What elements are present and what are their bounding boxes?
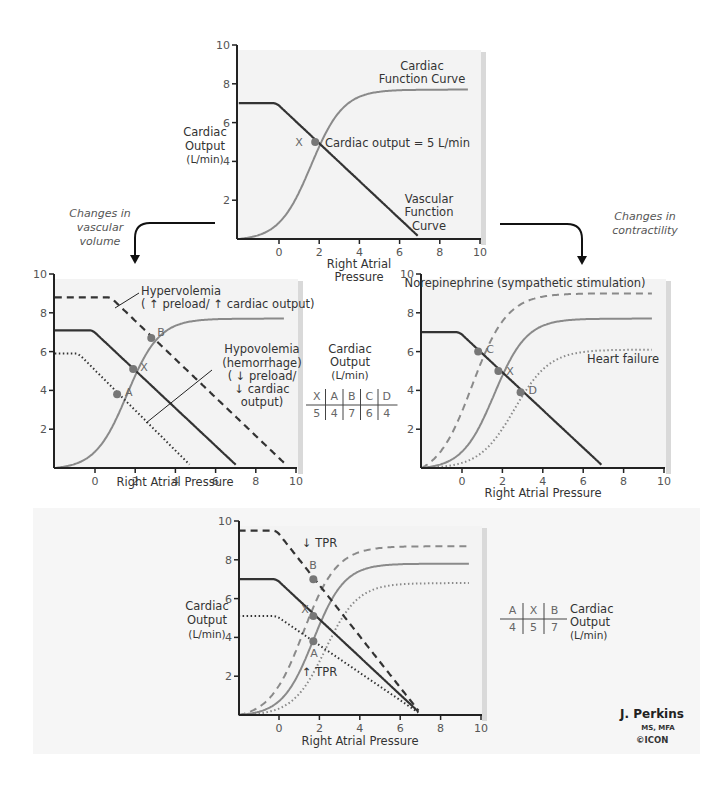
x-tick-label: 0: [276, 722, 283, 735]
x-axis-label: Right Atrial: [327, 257, 391, 271]
y-tick-label: 6: [40, 346, 47, 359]
y-tick-label: 8: [225, 554, 232, 567]
x-tick-label: 0: [92, 475, 99, 488]
table-cell: 5: [313, 407, 320, 420]
table-cell: 5: [530, 621, 537, 634]
x-tick-label: 8: [436, 246, 443, 259]
equilibrium-point-a: [113, 390, 121, 398]
plot-shadow: [482, 528, 487, 721]
arrow-down-icon: [577, 256, 587, 265]
y-tick-label: 4: [223, 155, 230, 168]
y-axis-label: Output: [185, 139, 225, 153]
point-label: X: [295, 136, 303, 149]
cardiac-curve-label: Function Curve: [379, 72, 466, 86]
arrow-down-icon: [130, 255, 140, 264]
table-title: Cardiac: [570, 602, 613, 616]
y-tick-label: 8: [407, 307, 414, 320]
middle-cardiac-output-table: Cardiac Output (L/min) X5A4B7C6D4: [306, 342, 398, 420]
x-tick-label: 8: [620, 475, 627, 488]
y-tick-label: 4: [407, 384, 414, 397]
table-cell: 7: [348, 407, 355, 420]
cardiac-curve-label: Cardiac: [400, 59, 443, 73]
arrow-contractility: Changes in contractility: [500, 210, 678, 265]
equilibrium-point-a: [309, 637, 317, 645]
point-label: C: [486, 343, 494, 356]
table-header: A: [330, 390, 338, 403]
table-header: X: [530, 604, 538, 617]
equilibrium-point-b: [309, 575, 317, 583]
y-tick-label: 8: [40, 307, 47, 320]
chart-contractility: 0246810246810CXD: [400, 268, 671, 488]
hypovolemia-label: (hemorrhage): [222, 356, 301, 370]
equilibrium-point-b: [147, 334, 155, 342]
table-header: X: [313, 390, 321, 403]
chart-tpr: 0246810246810BXA: [218, 515, 488, 735]
table-cell: 6: [366, 407, 373, 420]
arrow-label-line: volume: [80, 235, 121, 248]
x-axis-label: Pressure: [334, 270, 383, 284]
x-axis-label: Right Atrial Pressure: [484, 486, 601, 500]
table-cell: 4: [331, 407, 338, 420]
y-tick-label: 10: [216, 39, 230, 52]
point-label: X: [140, 361, 148, 374]
arrow-label-line: Changes in: [614, 210, 675, 223]
y-tick-label: 2: [223, 194, 230, 207]
x-tick-label: 0: [276, 246, 283, 259]
table-title: Cardiac: [328, 342, 371, 356]
equilibrium-point-x: [129, 365, 137, 373]
arrow-label-line: contractility: [612, 224, 678, 237]
y-tick-label: 2: [407, 423, 414, 436]
vascular-curve-label: Function: [405, 205, 454, 219]
equilibrium-point-c: [474, 348, 482, 356]
point-label: A: [125, 386, 133, 399]
plot-area: [239, 526, 482, 715]
table-title: Output: [330, 355, 370, 369]
figure-canvas: 0246810246810X 0246810246810AXB 02468102…: [0, 0, 704, 787]
y-tick-label: 4: [225, 631, 232, 644]
hypovolemia-label: ( ↓ preload/: [228, 369, 297, 383]
x-tick-label: 8: [437, 722, 444, 735]
hypovolemia-label: ↓ cardiac: [234, 382, 289, 396]
y-tick-label: 8: [223, 78, 230, 91]
table-title: (L/min): [570, 629, 607, 641]
table-header: B: [551, 604, 559, 617]
y-tick-label: 2: [40, 423, 47, 436]
y-axis-label: Output: [187, 613, 227, 627]
point-label: B: [309, 559, 317, 572]
norepinephrine-label: Norepinephrine (sympathetic stimulation): [405, 276, 646, 290]
x-axis-label: Right Atrial Pressure: [301, 734, 418, 748]
vascular-curve-label: Curve: [412, 219, 446, 233]
point-label: X: [301, 603, 309, 616]
publisher-logo: ©ICON: [636, 735, 668, 745]
plot-shadow: [666, 281, 671, 474]
x-tick-label: 10: [289, 475, 303, 488]
table-header: C: [365, 390, 373, 403]
heart-failure-label: Heart failure: [587, 352, 659, 366]
point-label: A: [310, 647, 318, 660]
author-name: J. Perkins: [619, 707, 684, 721]
y-axis-label: (L/min): [186, 153, 223, 165]
y-tick-label: 2: [225, 670, 232, 683]
table-title: (L/min): [331, 369, 368, 381]
x-tick-label: 10: [474, 722, 488, 735]
x-axis-label: Right Atrial Pressure: [116, 475, 233, 489]
point-label: B: [157, 326, 165, 339]
plot-area: [421, 279, 666, 468]
table-cell: 4: [383, 407, 390, 420]
hypovolemia-label: output): [241, 395, 283, 409]
arrow-label-line: vascular: [77, 221, 125, 234]
equilibrium-point-x: [311, 138, 319, 146]
tpr-decrease-label: ↓ TPR: [302, 536, 337, 550]
point-label: D: [529, 384, 537, 397]
hypervolemia-label: Hypervolemia: [141, 284, 221, 298]
y-tick-label: 10: [33, 268, 47, 281]
x-tick-label: 10: [473, 246, 487, 259]
equilibrium-point-x: [309, 612, 317, 620]
arrow-label-line: Changes in: [69, 207, 130, 220]
table-header: A: [509, 604, 517, 617]
hypovolemia-label: Hypovolemia: [224, 342, 299, 356]
equilibrium-point-d: [517, 388, 525, 396]
equilibrium-point-x: [494, 367, 502, 375]
table-title: Output: [570, 615, 610, 629]
tpr-increase-label: ↑ TPR: [302, 665, 337, 679]
